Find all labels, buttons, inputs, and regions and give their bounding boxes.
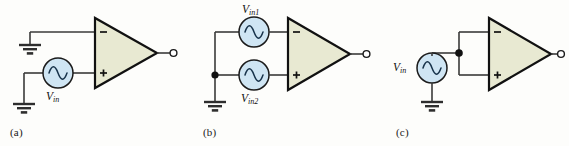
- panel-label-b: (b): [203, 126, 216, 138]
- panel-b-source-label-vin2: Vin2: [241, 92, 258, 106]
- panel-b-circuit: [204, 17, 370, 110]
- panel-a-output-terminal: [170, 50, 177, 57]
- panel-a-ground-bottom: [13, 104, 35, 112]
- panel-c-circuit: [417, 18, 564, 110]
- panel-label-a: (a): [10, 126, 23, 138]
- panel-c-opamp: [489, 18, 551, 90]
- panel-b-source-vin1: [239, 17, 288, 47]
- panel-a-output: [157, 50, 177, 57]
- panel-a-ground-top: [19, 45, 41, 53]
- panel-b-junction-dot: [211, 71, 218, 78]
- panel-label-c: (c): [396, 126, 409, 138]
- panel-c-output: [551, 51, 564, 58]
- panel-a-source-label: Vin: [46, 90, 59, 104]
- panel-c-ground: [421, 102, 443, 110]
- panel-b-opamp: [288, 18, 350, 90]
- panel-a-opamp: [95, 18, 157, 88]
- panel-c-source-vin: [417, 53, 447, 101]
- panel-c-source-label: Vin: [393, 61, 406, 75]
- panel-b-output: [350, 51, 370, 58]
- panel-a-source-vin: [43, 58, 73, 88]
- panel-a-inverting-wire: [30, 32, 95, 44]
- panel-b-source-vin2: [239, 60, 288, 90]
- circuit-diagram-svg: [0, 0, 569, 146]
- panel-c-junction-dot: [455, 49, 463, 57]
- panel-b-ground: [204, 102, 226, 110]
- panel-b-source-label-vin1: Vin1: [242, 3, 259, 17]
- panel-c-output-terminal: [558, 51, 565, 58]
- panel-b-output-terminal: [363, 51, 370, 58]
- panel-a-circuit: [13, 18, 177, 112]
- figure-opamp-input-configurations: Vin Vin1 Vin2 Vin (a) (b) (c): [0, 0, 569, 146]
- panel-b-rails: [215, 32, 239, 101]
